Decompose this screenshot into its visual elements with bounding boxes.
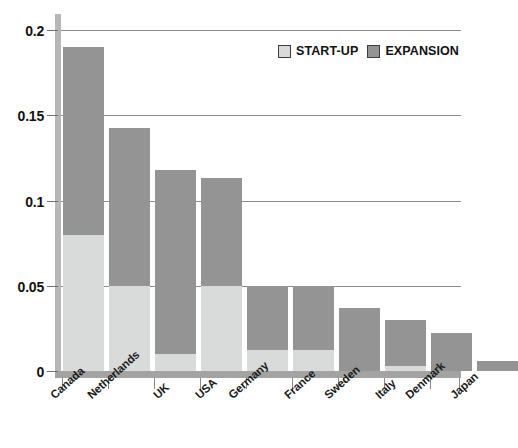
bar-segment-expansion (63, 47, 104, 235)
bar-segment-expansion (247, 286, 288, 350)
y-tick-mark-0.15 (47, 115, 58, 116)
legend-entry-expansion[interactable]: EXPANSION (367, 44, 459, 58)
gridline-0.2 (61, 30, 461, 31)
y-tick-mark-0.1 (47, 201, 58, 202)
bar-italy[interactable] (385, 320, 426, 371)
gridline-0.15 (61, 115, 461, 116)
bar-sweden[interactable] (339, 308, 380, 371)
bar-segment-expansion (109, 128, 150, 286)
y-tick-label-0: 0 (0, 364, 44, 380)
bar-japan[interactable] (477, 361, 518, 371)
y-tick-mark-0.2 (47, 30, 58, 31)
bar-canada[interactable] (63, 47, 104, 371)
y-axis-labels: 0.2 0.15 0.1 0.05 0 (0, 0, 44, 448)
bar-segment-startup (155, 354, 196, 371)
x-label-italy: Italy (373, 377, 398, 401)
bar-segment-startup (293, 350, 334, 371)
legend-label-start-up: START-UP (296, 44, 358, 58)
plot-area (61, 14, 461, 371)
legend-entry-start-up[interactable]: START-UP (278, 44, 358, 58)
bar-segment-expansion (339, 308, 380, 371)
bar-france[interactable] (293, 286, 334, 371)
bar-usa[interactable] (201, 178, 242, 371)
bar-segment-startup (63, 235, 104, 371)
legend-swatch-icon (278, 45, 291, 58)
y-axis-spine (55, 14, 61, 371)
bar-uk[interactable] (155, 170, 196, 371)
y-tick-label-0.15: 0.15 (0, 108, 44, 124)
bar-segment-expansion (477, 361, 518, 371)
bar-segment-startup (201, 286, 242, 371)
chart-legend: START-UP EXPANSION (278, 44, 459, 58)
bar-segment-expansion (201, 178, 242, 286)
y-tick-mark-0.05 (47, 286, 58, 287)
bar-netherlands[interactable] (109, 128, 150, 371)
y-tick-label-0.05: 0.05 (0, 279, 44, 295)
x-label-usa: USA (193, 376, 219, 401)
legend-swatch-icon (367, 45, 380, 58)
y-tick-label-0.2: 0.2 (0, 23, 44, 39)
bar-segment-expansion (155, 170, 196, 354)
y-tick-mark-0 (47, 371, 58, 372)
y-tick-label-0.1: 0.1 (0, 194, 44, 210)
legend-label-expansion: EXPANSION (385, 44, 459, 58)
bar-germany[interactable] (247, 286, 288, 371)
bar-segment-expansion (293, 286, 334, 350)
bar-segment-expansion (385, 320, 426, 366)
